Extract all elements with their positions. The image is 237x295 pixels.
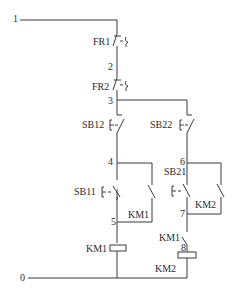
km2-aux-label: KM2 [195, 200, 216, 210]
node-label-2: 2 [108, 62, 113, 72]
node-label-4: 4 [108, 157, 113, 167]
km2-coil-label: KM2 [155, 264, 176, 274]
km1-coil-label: KM1 [86, 244, 107, 254]
node-label-8: 8 [181, 243, 186, 253]
fr1-label: FR1 [93, 37, 110, 47]
wire-node-6 [187, 163, 221, 182]
node-label-7: 7 [180, 209, 185, 219]
circuit-diagram: 1 2 3 4 5 6 7 8 0 FR1 FR2 SB12 SB22 SB11… [0, 0, 237, 295]
fr1-contact-icon [113, 34, 128, 78]
node-label-0: 0 [20, 273, 25, 283]
wire-node-3 [117, 100, 187, 115]
km1-coil-icon [110, 245, 126, 251]
sb21-button-icon [172, 182, 190, 232]
sb22-label: SB22 [150, 120, 172, 130]
fr2-label: FR2 [92, 82, 109, 92]
wire-node-4 [117, 163, 152, 182]
sb12-label: SB12 [82, 120, 104, 130]
sb11-label: SB11 [74, 187, 96, 197]
sb21-label: SB21 [164, 167, 186, 177]
node-label-5: 5 [111, 217, 116, 227]
node-label-1: 1 [13, 14, 18, 24]
wire-node-1 [20, 20, 117, 34]
fr2-contact-icon [113, 78, 128, 115]
km1-aux-label: KM1 [128, 210, 149, 220]
km1-interlock-label: KM1 [159, 233, 180, 243]
circuit-wiring [0, 0, 237, 295]
node-label-3: 3 [108, 96, 113, 106]
